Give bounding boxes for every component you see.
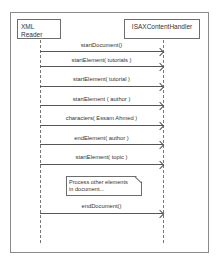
message-arrow xyxy=(40,66,163,67)
participant-label: XML Reader xyxy=(21,23,42,38)
message-arrow xyxy=(40,105,163,106)
message-arrow xyxy=(40,86,163,87)
note-box: Process other elements in document... xyxy=(66,176,142,196)
message-label: endElement( author ) xyxy=(40,135,163,142)
message-label: endDocument() xyxy=(40,203,163,210)
message-arrow xyxy=(40,164,163,165)
message-arrow xyxy=(40,213,163,214)
message-label: startElement( tutorial ) xyxy=(40,76,163,83)
participant-xml-reader: XML Reader xyxy=(17,19,61,39)
message-arrow xyxy=(40,125,163,126)
participant-isaxcontenthandler: ISAXContentHandler xyxy=(124,19,200,39)
message-label: startDocument() xyxy=(40,42,163,49)
message-label: startElement ( author ) xyxy=(40,96,163,103)
message-arrow xyxy=(40,51,163,52)
note-line: Process other elements xyxy=(69,179,139,186)
message-arrow xyxy=(40,144,163,145)
message-label: startElement( tutorials ) xyxy=(40,57,163,64)
message-label: characters( Essam Ahmed ) xyxy=(40,115,163,122)
message-label: startElement( topic ) xyxy=(40,154,163,161)
note-line: in document... xyxy=(69,186,139,193)
participant-label: ISAXContentHandler xyxy=(132,23,192,30)
